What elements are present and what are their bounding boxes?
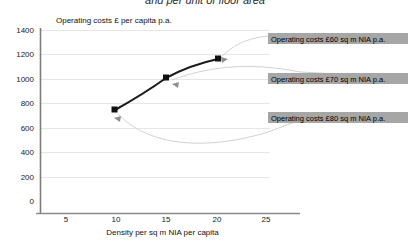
arrowhead-60 (221, 57, 228, 63)
data-point-10 (112, 107, 118, 113)
legend-item-70[interactable]: Operating costs £70 sq m NIA p.a. (268, 73, 408, 84)
x-axis-label: Density per sq m NIA per capita (55, 228, 270, 237)
leader-arrowheads (114, 57, 228, 122)
series-line (115, 59, 218, 110)
arrowhead-80 (114, 116, 121, 122)
leader-lines (118, 36, 340, 144)
data-point-15 (163, 75, 169, 81)
chart-canvas: and per unit of floor area Operating cos… (0, 0, 410, 244)
data-point-20 (215, 56, 221, 62)
legend-item-80[interactable]: Operating costs £80 sq m NIA p.a. (268, 112, 408, 123)
gridlines (40, 31, 270, 178)
legend-item-60[interactable]: Operating costs £60 sq m NIA p.a. (268, 33, 408, 44)
arrowhead-70 (172, 82, 179, 88)
